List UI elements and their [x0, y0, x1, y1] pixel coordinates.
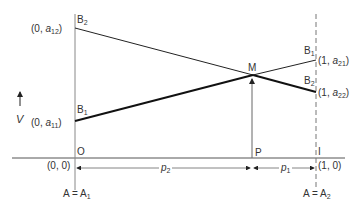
m-point-label: M: [248, 63, 256, 73]
b2-right-label: B2: [304, 76, 315, 86]
origin-coord-label: (0, 0): [47, 161, 70, 171]
b1-right-label: B1: [304, 46, 315, 56]
strategy-b2-line: [75, 28, 253, 75]
i-point-label: I: [318, 147, 321, 157]
strategy-b1-line-thick: [75, 75, 253, 121]
p1-label: p1: [279, 163, 292, 173]
b2-left-label: B2: [77, 15, 88, 25]
a11-coord-label: (0, a11): [31, 118, 62, 128]
unit-coord-label: (1, 0): [318, 161, 341, 171]
right-axis-strategy-label: A = A2: [303, 189, 331, 199]
b1-left-label: B1: [77, 105, 88, 115]
p-point-label: P: [255, 148, 262, 158]
a21-coord-label: (1, a21): [318, 56, 349, 66]
a12-coord-label: (0, a12): [31, 24, 62, 34]
v-axis-label: V: [16, 114, 23, 125]
a22-coord-label: (1, a22): [318, 88, 349, 98]
p2-label: p2: [159, 163, 172, 173]
left-axis-strategy-label: A = A1: [63, 189, 91, 199]
strategy-b1-line: [253, 60, 316, 75]
origin-label: O: [77, 147, 85, 157]
